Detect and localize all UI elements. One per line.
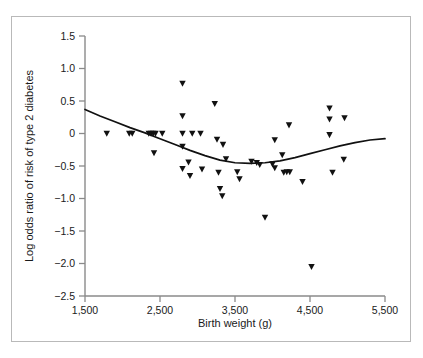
data-point-marker xyxy=(299,179,305,185)
data-point-marker xyxy=(308,264,314,270)
fitted-curve-line xyxy=(85,109,385,163)
data-point-marker xyxy=(104,131,110,137)
y-tick-label: 0 xyxy=(69,127,75,139)
y-axis-group: 1.51.00.50−0.5−1.0−1.5−2.0−2.5 Log odds … xyxy=(23,30,85,302)
data-point-marker xyxy=(215,170,221,176)
x-axis-title: Birth weight (g) xyxy=(198,317,272,329)
data-point-marker xyxy=(286,122,292,128)
y-tick-label: −1.0 xyxy=(54,192,75,204)
data-point-marker xyxy=(262,215,268,221)
y-axis-tick-marks xyxy=(79,36,85,296)
data-point-marker xyxy=(279,152,285,158)
data-point-marker xyxy=(329,170,335,176)
data-point-marker xyxy=(189,131,195,137)
data-point-marker xyxy=(236,176,242,182)
y-tick-label: 1.5 xyxy=(60,30,75,42)
data-point-marker xyxy=(326,116,332,122)
data-point-marker xyxy=(197,131,203,137)
data-point-marker xyxy=(272,165,278,171)
data-point-marker xyxy=(219,193,225,199)
y-tick-label: −0.5 xyxy=(54,160,75,172)
data-point-marker xyxy=(179,113,185,119)
y-axis-tick-labels: 1.51.00.50−0.5−1.0−1.5−2.0−2.5 xyxy=(54,30,75,302)
data-point-marker xyxy=(199,167,205,173)
data-point-marker xyxy=(179,166,185,172)
data-point-marker xyxy=(326,105,332,111)
x-tick-label: 3,500 xyxy=(222,304,248,316)
data-point-marker xyxy=(185,159,191,165)
data-point-marker xyxy=(187,173,193,179)
y-tick-label: 1.0 xyxy=(60,62,75,74)
data-point-marker xyxy=(214,137,220,143)
data-point-marker xyxy=(179,81,185,87)
y-axis-title: Log odds ratio of risk of type 2 diabete… xyxy=(23,70,35,263)
data-point-marker xyxy=(234,169,240,175)
y-tick-label: 0.5 xyxy=(60,95,75,107)
data-point-marker xyxy=(151,150,157,156)
x-tick-label: 5,500 xyxy=(372,304,398,316)
x-axis-group: 1,5002,5003,5004,5005,500 Birth weight (… xyxy=(72,296,398,329)
x-axis-tick-labels: 1,5002,5003,5004,5005,500 xyxy=(72,304,398,316)
y-tick-label: −2.5 xyxy=(54,290,75,302)
data-point-marker xyxy=(217,186,223,192)
data-point-marker xyxy=(272,137,278,143)
figure-root: 1.51.00.50−0.5−1.0−1.5−2.0−2.5 Log odds … xyxy=(0,0,423,358)
data-point-marker xyxy=(179,131,185,137)
data-point-markers xyxy=(104,81,348,270)
x-tick-label: 2,500 xyxy=(147,304,173,316)
scatter-chart: 1.51.00.50−0.5−1.0−1.5−2.0−2.5 Log odds … xyxy=(0,0,423,358)
data-point-marker xyxy=(220,142,226,148)
y-tick-label: −1.5 xyxy=(54,225,75,237)
y-tick-label: −2.0 xyxy=(54,257,75,269)
data-point-marker xyxy=(326,132,332,138)
data-point-marker xyxy=(341,157,347,163)
x-axis-tick-marks xyxy=(85,296,385,302)
data-point-marker xyxy=(212,101,218,107)
x-tick-label: 1,500 xyxy=(72,304,98,316)
x-tick-label: 4,500 xyxy=(297,304,323,316)
data-point-marker xyxy=(341,115,347,121)
data-point-marker xyxy=(159,131,165,137)
